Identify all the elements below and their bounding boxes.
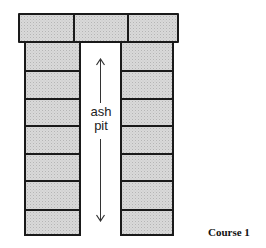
right-brick-2: [120, 70, 174, 100]
right-brick-7: [120, 209, 174, 236]
right-brick-1: [120, 41, 174, 72]
right-brick-5: [120, 153, 174, 182]
course-caption: Course 1: [208, 226, 250, 238]
right-brick-4: [120, 125, 174, 155]
left-brick-1: [24, 41, 81, 72]
right-brick-3: [120, 98, 174, 127]
ash-pit-label-line1: ash: [82, 105, 120, 118]
left-brick-6: [24, 180, 81, 211]
arrow-down-icon: [96, 213, 105, 222]
cap-brick-right: [127, 13, 179, 43]
left-brick-7: [24, 209, 81, 236]
left-brick-4: [24, 125, 81, 155]
left-brick-5: [24, 153, 81, 182]
cap-brick-left: [18, 13, 75, 43]
left-brick-3: [24, 98, 81, 127]
ash-pit-label-line2: pit: [82, 119, 120, 132]
arrow-down-shaft: [100, 139, 101, 221]
arrow-up-shaft: [100, 59, 101, 103]
left-brick-2: [24, 70, 81, 100]
cap-brick-middle: [73, 13, 129, 43]
right-brick-6: [120, 180, 174, 211]
